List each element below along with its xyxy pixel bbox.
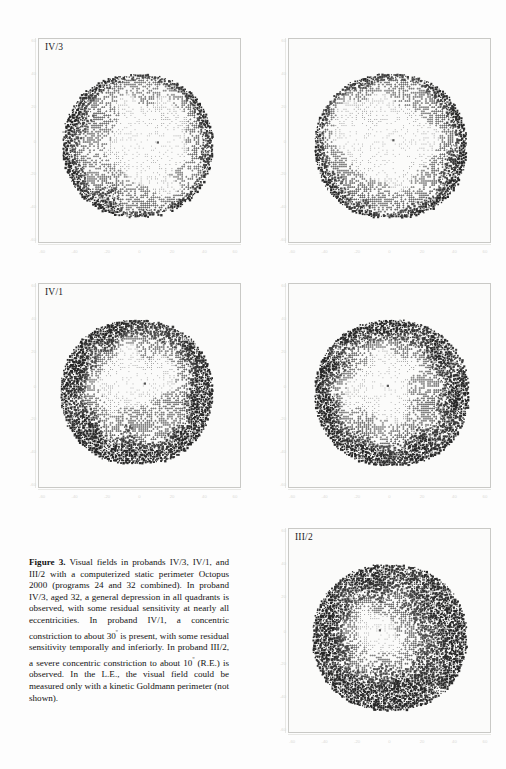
x-tick: 0 — [138, 494, 140, 499]
x-tick: -60 — [289, 739, 295, 744]
x-tick: -20 — [354, 249, 360, 254]
figure-label: Figure 3. — [29, 557, 66, 567]
y-axis-ticks: 60 40 20 0 -20 -40 -60 — [271, 528, 286, 733]
y-tick: 60 — [281, 528, 286, 533]
x-tick: -40 — [322, 494, 328, 499]
y-tick: 40 — [281, 315, 286, 320]
x-tick: -40 — [322, 739, 328, 744]
panel-title-iv1: IV/1 — [45, 287, 63, 297]
visual-field-panel: 60 40 20 0 -20 -40 -60 -60 -40 -20 0 20 … — [288, 38, 491, 243]
x-tick: 40 — [202, 494, 207, 499]
x-tick: 60 — [483, 494, 488, 499]
caption-part-1: Visual fields in probands IV/3, IV/1, an… — [29, 557, 229, 641]
visual-field-panel: 60 40 20 0 -20 -40 -60 -60 -40 -20 0 20 … — [288, 283, 491, 488]
y-tick: -60 — [280, 236, 286, 241]
y-tick: -40 — [280, 694, 286, 699]
visual-field-plot — [308, 556, 470, 718]
y-tick: 40 — [31, 315, 36, 320]
y-tick: -60 — [280, 726, 286, 731]
x-tick: 60 — [233, 249, 238, 254]
x-tick: 20 — [170, 249, 175, 254]
y-axis-ticks: 60 40 20 0 -20 -40 -60 — [21, 283, 36, 488]
y-tick: -60 — [30, 236, 36, 241]
x-tick: 0 — [388, 249, 390, 254]
y-tick: 60 — [281, 283, 286, 288]
y-tick: -40 — [280, 204, 286, 209]
x-tick: 40 — [452, 739, 457, 744]
y-tick: 20 — [31, 103, 36, 108]
x-axis-ticks: -60 -40 -20 0 20 40 60 — [288, 489, 491, 499]
visual-field-panel: 60 40 20 0 -20 -40 -60 -60 -40 -20 0 20 … — [38, 283, 241, 488]
y-tick: -60 — [30, 481, 36, 486]
y-tick: 60 — [31, 283, 36, 288]
y-tick: 0 — [284, 628, 286, 633]
x-axis-ticks: -60 -40 -20 0 20 40 60 — [38, 489, 241, 499]
y-tick: -40 — [30, 449, 36, 454]
y-axis-ticks: 60 40 20 0 -20 -40 -60 — [271, 38, 286, 243]
y-axis-ticks: 60 40 20 0 -20 -40 -60 — [271, 283, 286, 488]
x-tick: 0 — [388, 739, 390, 744]
y-tick: -20 — [280, 171, 286, 176]
y-tick: -40 — [280, 449, 286, 454]
y-tick: 0 — [284, 383, 286, 388]
y-tick: 40 — [281, 560, 286, 565]
x-tick: -20 — [104, 249, 110, 254]
y-tick: 0 — [284, 138, 286, 143]
x-tick: -60 — [39, 249, 45, 254]
y-tick: -20 — [280, 661, 286, 666]
y-tick: 20 — [281, 593, 286, 598]
visual-field-plot — [310, 311, 472, 474]
x-tick: -20 — [104, 494, 110, 499]
x-axis-ticks: -60 -40 -20 0 20 40 60 — [288, 734, 491, 744]
y-tick: 20 — [281, 103, 286, 108]
y-tick: 0 — [34, 383, 36, 388]
y-axis-ticks: 60 40 20 0 -20 -40 -60 — [21, 38, 36, 243]
x-tick: 20 — [420, 249, 425, 254]
x-tick: 20 — [420, 739, 425, 744]
visual-field-panel: 60 40 20 0 -20 -40 -60 -60 -40 -20 0 20 … — [38, 38, 241, 243]
x-tick: -60 — [39, 494, 45, 499]
visual-field-plot — [58, 65, 216, 225]
x-tick: -20 — [354, 494, 360, 499]
figure-caption: Figure 3. Visual fields in probands IV/3… — [29, 557, 229, 704]
visual-field-plot — [310, 65, 470, 226]
y-tick: -20 — [30, 171, 36, 176]
x-tick: -60 — [289, 494, 295, 499]
x-tick: -20 — [354, 739, 360, 744]
x-tick: 40 — [202, 249, 207, 254]
y-tick: 60 — [281, 38, 286, 43]
x-axis-ticks: -60 -40 -20 0 20 40 60 — [288, 244, 491, 254]
x-tick: 60 — [483, 249, 488, 254]
x-tick: -40 — [322, 249, 328, 254]
x-tick: 40 — [452, 249, 457, 254]
y-tick: 40 — [281, 70, 286, 75]
panel-title-iii2: III/2 — [295, 532, 313, 542]
x-tick: 20 — [420, 494, 425, 499]
x-tick: 0 — [138, 249, 140, 254]
y-tick: 20 — [31, 348, 36, 353]
y-tick: -20 — [280, 416, 286, 421]
figure-page: 60 40 20 0 -20 -40 -60 -60 -40 -20 0 20 … — [0, 0, 506, 769]
y-tick: 0 — [34, 138, 36, 143]
y-tick: -60 — [280, 481, 286, 486]
visual-field-panel: 60 40 20 0 -20 -40 -60 -60 -40 -20 0 20 … — [288, 528, 491, 733]
panel-title-iv3: IV/3 — [45, 42, 63, 52]
x-tick: -40 — [72, 249, 78, 254]
y-tick: -40 — [30, 204, 36, 209]
x-tick: 60 — [233, 494, 238, 499]
x-axis-ticks: -60 -40 -20 0 20 40 60 — [38, 244, 241, 254]
x-tick: -60 — [289, 249, 295, 254]
y-tick: 40 — [31, 70, 36, 75]
x-tick: 20 — [170, 494, 175, 499]
y-tick: 20 — [281, 348, 286, 353]
y-tick: 60 — [31, 38, 36, 43]
x-tick: 40 — [452, 494, 457, 499]
y-tick: -20 — [30, 416, 36, 421]
x-tick: -40 — [72, 494, 78, 499]
x-tick: 60 — [483, 739, 488, 744]
x-tick: 0 — [388, 494, 390, 499]
visual-field-plot — [56, 311, 216, 472]
